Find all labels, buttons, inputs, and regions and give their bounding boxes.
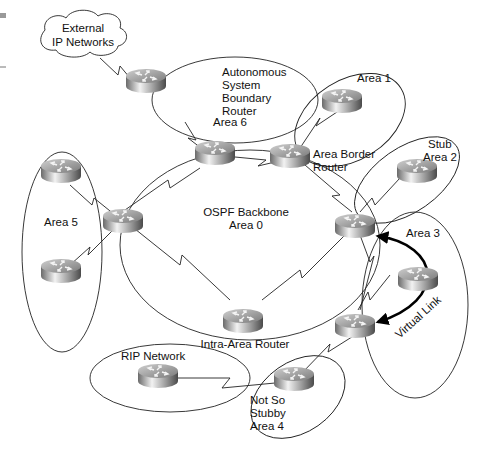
router-area5-bottom[interactable] [41, 259, 81, 283]
rip-network-label: RIP Network [121, 350, 186, 362]
router-backbone-right[interactable] [335, 214, 375, 238]
area1-label: Area 1 [357, 72, 391, 84]
area0-label-line-1: OSPF Backbone [203, 206, 289, 218]
link-area5-bottom [70, 228, 115, 265]
router-area-border[interactable] [270, 144, 310, 168]
asbr-label-line-3: Boundary [222, 92, 271, 104]
area4-label-line-3: Area 4 [250, 420, 284, 432]
asbr-label-line-1: Autonomous [222, 66, 287, 78]
router-area5-top[interactable] [41, 159, 81, 183]
link-area2-right [360, 178, 400, 212]
area6-label: Area 6 [213, 116, 247, 128]
area4-label-line-1: Not So [250, 394, 285, 406]
asbr-label-line-2: System [222, 79, 260, 91]
area4-label-line-2: Stubby [250, 407, 286, 419]
router-backbone-bottom-right[interactable] [335, 314, 375, 338]
ospf-diagram: External IP Networks Virtual Link Autono… [0, 0, 481, 456]
router-area1[interactable] [322, 89, 362, 113]
area5-label: Area 5 [44, 216, 78, 228]
intra-area-router-label: Intra-Area Router [201, 338, 290, 350]
abr-label-line-1: Area Border [313, 148, 375, 160]
router-asbr[interactable] [126, 69, 166, 93]
router-rip[interactable] [138, 364, 178, 388]
external-networks-cloud: External IP Networks [41, 10, 127, 57]
area3-label: Area 3 [406, 227, 440, 239]
link-bottom-area4 [300, 335, 355, 375]
router-area3[interactable] [398, 267, 438, 291]
router-backbone-left[interactable] [195, 141, 235, 165]
link-backbone-left-abr [235, 157, 275, 166]
area0-label-line-2: Area 0 [229, 219, 263, 231]
area3-outline [362, 212, 468, 398]
area2-label-line-2: Area 2 [423, 151, 457, 163]
link-left-intra [130, 225, 230, 300]
cloud-label-line-2: IP Networks [52, 36, 114, 48]
page-mark [0, 13, 6, 18]
router-area4[interactable] [274, 367, 314, 391]
router-backbone-far-left[interactable] [103, 209, 143, 233]
area2-label-line-1: Stub [428, 138, 452, 150]
link-rip-area4 [178, 378, 275, 388]
router-intra-area[interactable] [223, 309, 263, 333]
abr-label-line-2: Router [313, 161, 348, 173]
link-area5-top [70, 185, 115, 215]
cloud-label-line-1: External [62, 22, 104, 34]
link-intra-right [262, 235, 345, 300]
link-area1-abr [300, 110, 340, 148]
